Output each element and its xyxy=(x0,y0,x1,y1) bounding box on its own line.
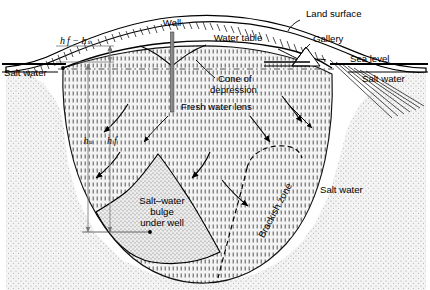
label-hs: hₛ xyxy=(84,135,93,146)
cross-section-svg: Land surface Well Water table Gallery Se… xyxy=(0,0,430,290)
figure-canvas: Land surface Well Water table Gallery Se… xyxy=(0,0,430,290)
label-bulge-line2: bulge xyxy=(150,206,173,217)
label-gallery: Gallery xyxy=(313,33,344,44)
label-fresh-water-lens: Fresh water lens xyxy=(181,101,252,112)
label-land-surface: Land surface xyxy=(306,8,361,19)
label-hf: h f xyxy=(107,135,118,146)
label-salt-water-right: Salt water xyxy=(362,73,405,84)
lens-left-node xyxy=(61,66,65,70)
label-sea-level: Sea level xyxy=(350,53,389,64)
label-bulge-line3: under well xyxy=(140,217,184,228)
label-hf-minus-hs: h f − hₛ xyxy=(60,35,91,46)
dimension-base-node xyxy=(148,230,152,234)
label-cone-of-depression-line1: Cone of xyxy=(218,73,252,84)
leader-gallery xyxy=(306,44,310,49)
label-well: Well xyxy=(163,17,181,28)
label-salt-water-body: Salt water xyxy=(320,184,363,195)
well-casing xyxy=(171,32,174,112)
label-water-table: Water table xyxy=(214,32,263,43)
label-salt-water-left: Salt water xyxy=(4,67,47,78)
label-cone-of-depression-line2: depression xyxy=(210,84,257,95)
label-bulge-line1: Salt–water xyxy=(139,195,185,206)
